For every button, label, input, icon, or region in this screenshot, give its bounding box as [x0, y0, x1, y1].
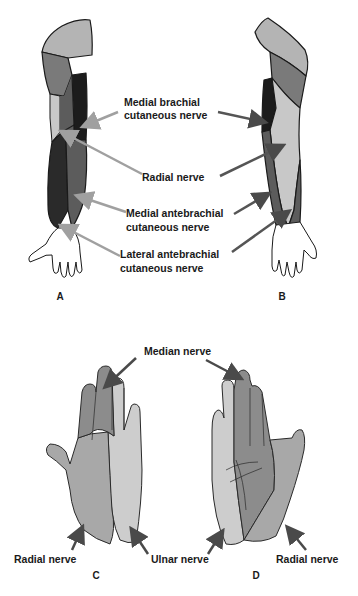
arrow-d-ulnar: [208, 532, 222, 554]
label-radial-nerve-arm: Radial nerve: [142, 171, 205, 183]
label-median-nerve: Median nerve: [144, 345, 211, 357]
arrow-a-medial-brachial: [84, 112, 118, 126]
label-lateral-antebrachial-line2: cutaneous nerve: [120, 262, 204, 274]
label-medial-antebrachial-line1: Medial antebrachial: [126, 207, 224, 219]
label-medial-brachial-line1: Medial brachial: [124, 96, 200, 108]
arrow-d-median: [206, 360, 240, 378]
hand-c-median-region: [78, 366, 114, 438]
label-radial-nerve-d: Radial nerve: [276, 553, 339, 565]
hand-c-radial-region: [46, 432, 113, 544]
arm-b: [255, 18, 317, 277]
nerve-distribution-diagram: A B Medial brachial cutaneous nerve Radi…: [0, 0, 358, 596]
arrow-a-medial-antebrachial: [78, 196, 126, 212]
panel-label-c: C: [92, 570, 99, 581]
arm-b-hand: [272, 222, 317, 277]
panel-label-a: A: [56, 291, 63, 302]
label-medial-brachial-line2: cutaneous nerve: [124, 109, 208, 121]
arm-a: [29, 20, 92, 278]
arrow-c-radial: [72, 528, 82, 550]
arrow-d-radial: [288, 528, 306, 550]
arrow-b-medial-antebrachial: [234, 194, 268, 214]
panel-label-d: D: [252, 570, 259, 581]
arm-a-hand: [29, 228, 82, 277]
label-medial-antebrachial-line2: cutaneous nerve: [126, 221, 210, 233]
label-ulnar-nerve: Ulnar nerve: [151, 553, 209, 565]
arrow-b-medial-brachial: [218, 112, 264, 122]
panel-label-b: B: [278, 291, 285, 302]
label-lateral-antebrachial-line1: Lateral antebrachial: [120, 248, 219, 260]
hand-c: [46, 366, 142, 544]
label-radial-nerve-c: Radial nerve: [14, 553, 77, 565]
arm-a-shoulder-region: [42, 20, 92, 58]
arm-a-forearm-lateral-region: [48, 132, 68, 228]
hand-d: [212, 370, 305, 545]
